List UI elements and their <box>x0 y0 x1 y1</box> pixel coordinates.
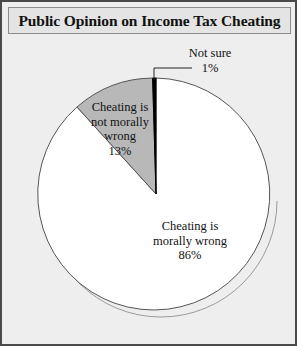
not-morally-wrong-label-line2: not morally <box>68 115 172 130</box>
morally-wrong-label-line1: Cheating is <box>126 219 254 234</box>
pie-chart-plot-area: Not sure 1% Cheating is not morally wron… <box>2 34 295 344</box>
slice-label-not-morally-wrong: Cheating is not morally wrong 13% <box>68 100 172 158</box>
morally-wrong-label-percent: 86% <box>126 248 254 263</box>
chart-title-band: Public Opinion on Income Tax Cheating <box>8 7 291 34</box>
not-sure-label-text: Not sure <box>162 46 258 61</box>
not-sure-label-percent: 1% <box>162 61 258 76</box>
slice-label-morally-wrong: Cheating is morally wrong 86% <box>126 219 254 263</box>
pie-chart-svg <box>2 34 295 344</box>
page-title: Public Opinion on Income Tax Cheating <box>18 12 280 30</box>
not-morally-wrong-label-line1: Cheating is <box>68 100 172 115</box>
chart-figure: Public Opinion on Income Tax Cheating No… <box>0 0 297 346</box>
not-morally-wrong-label-percent: 13% <box>68 144 172 159</box>
not-morally-wrong-label-line3: wrong <box>68 129 172 144</box>
slice-label-not-sure: Not sure 1% <box>162 46 258 75</box>
morally-wrong-label-line2: morally wrong <box>126 234 254 249</box>
